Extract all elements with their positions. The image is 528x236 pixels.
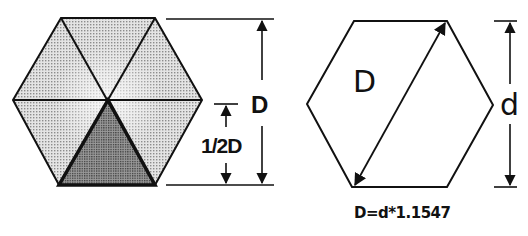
label-half-D: 1/2D <box>201 134 242 157</box>
label-D-right: D <box>353 64 376 99</box>
formula-text: D=d*1.1547 <box>354 204 451 222</box>
label-D-left: D <box>251 91 268 118</box>
diagonal-D-arrow <box>355 23 445 185</box>
label-d: d <box>500 87 519 122</box>
hexagon-diagram: D 1/2D D d D=d*1.1547 <box>0 0 528 236</box>
left-hexagon <box>13 18 202 185</box>
